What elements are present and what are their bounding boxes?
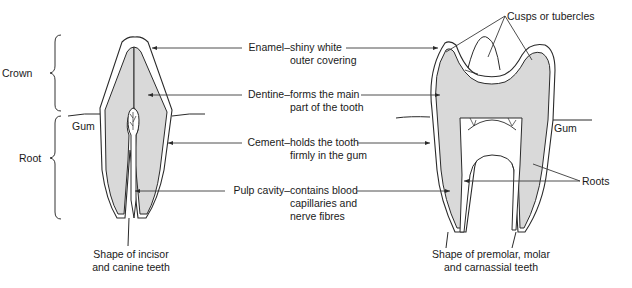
gum-line-left	[68, 114, 100, 116]
label-roots: Roots	[582, 175, 609, 188]
label-enamel-desc: shiny white outer covering	[290, 41, 357, 67]
label-enamel-term: Enamel–	[244, 41, 290, 54]
region-label-crown: Crown	[2, 67, 32, 80]
caption-molar: Shape of premolar, molar and carnassial …	[426, 248, 556, 274]
tooth-structure-diagram: Crown Root Gum Gum Enamel– shiny white o…	[0, 0, 632, 288]
leader-arrowheads	[135, 46, 469, 193]
region-label-root: Root	[19, 152, 41, 165]
label-cement-desc: holds the tooth firmly in the gum	[290, 136, 367, 162]
label-pulp-cavity-term: Pulp cavity–	[222, 184, 290, 197]
label-cement-term: Cement–	[238, 136, 290, 149]
gum-label-right: Gum	[554, 122, 577, 135]
root-brace	[50, 116, 61, 219]
label-pulp-cavity-desc: contains blood capillaries and nerve fib…	[290, 184, 358, 223]
label-dentine-desc: forms the main part of the tooth	[290, 88, 364, 114]
caption-incisor: Shape of incisor and canine teeth	[88, 248, 174, 274]
label-cusps: Cusps or tubercles	[507, 10, 595, 23]
incisor-tooth	[68, 37, 205, 246]
gum-line-right	[396, 117, 430, 118]
label-dentine-term: Dentine–	[238, 88, 290, 101]
gum-label-left: Gum	[72, 120, 95, 133]
crown-brace	[50, 35, 61, 111]
